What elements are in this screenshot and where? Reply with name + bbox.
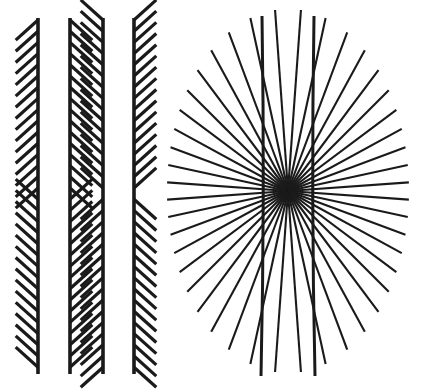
illusion-plate xyxy=(0,0,427,392)
illusion-plate-canvas xyxy=(0,0,427,392)
